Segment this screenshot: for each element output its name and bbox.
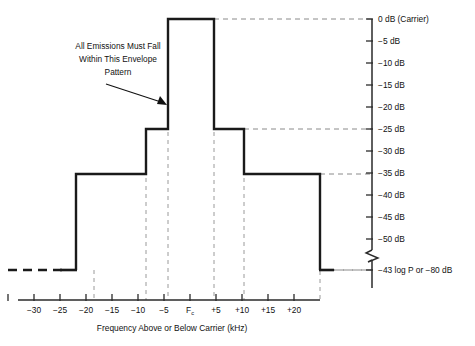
axis-break-symbol	[366, 250, 378, 262]
emission-envelope-path	[76, 19, 320, 270]
horizontal-guides	[214, 19, 372, 270]
vertical-guides	[94, 20, 320, 300]
spectral-emission-mask-diagram: 0 dB (Carrier)−5 dB−10 dB−15 dB−20 dB−25…	[0, 0, 475, 346]
y-axis	[366, 19, 378, 288]
diagram-canvas	[0, 0, 475, 346]
